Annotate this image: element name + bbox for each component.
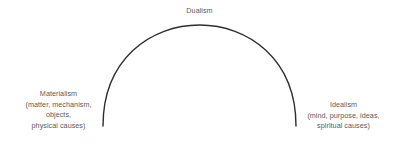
- label-materialism: Materialism (matter, mechanism, objects,…: [0, 89, 117, 131]
- label-idealism: Idealism (mind, purpose, ideas, spiritua…: [288, 100, 399, 132]
- label-materialism-line-4: physical causes): [0, 121, 117, 132]
- label-dualism-line-1: Dualism: [0, 6, 399, 17]
- label-idealism-line-2: (mind, purpose, ideas,: [288, 111, 399, 122]
- label-idealism-line-3: spiritual causes): [288, 121, 399, 132]
- diagram-canvas: Dualism Materialism (matter, mechanism, …: [0, 0, 399, 149]
- label-dualism: Dualism: [0, 6, 399, 17]
- arc-curve: [103, 25, 296, 126]
- label-materialism-line-3: objects,: [0, 110, 117, 121]
- label-materialism-line-2: (matter, mechanism,: [0, 100, 117, 111]
- label-materialism-line-1: Materialism: [0, 89, 117, 100]
- label-idealism-line-1: Idealism: [288, 100, 399, 111]
